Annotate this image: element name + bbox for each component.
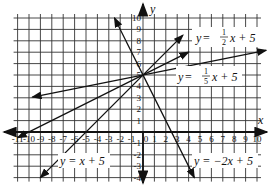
x-tick-label: -4	[94, 134, 102, 144]
x-tick-label: 0	[144, 134, 149, 144]
y-tick-label: 4	[137, 81, 142, 91]
y-tick-label: -2	[134, 150, 142, 160]
x-tick-label: -8	[48, 134, 56, 144]
y-tick-label: -3	[134, 161, 142, 171]
svg-text:1: 1	[204, 67, 208, 76]
svg-text:y: y	[177, 70, 184, 84]
y-tick-label: -1	[134, 138, 142, 148]
y-tick-label: 3	[137, 93, 142, 103]
svg-text:5: 5	[204, 77, 208, 86]
x-tick-label: 8	[232, 134, 237, 144]
x-tick-label: -3	[105, 134, 113, 144]
y-tick-label: 7	[137, 47, 142, 57]
svg-text:x + 5: x + 5	[211, 70, 237, 84]
svg-text:1: 1	[222, 28, 226, 37]
x-tick-label: 7	[221, 134, 226, 144]
svg-text:=: =	[203, 31, 210, 45]
x-tick-label: -7	[59, 134, 67, 144]
label-neg2-line: y = −2x + 5	[192, 153, 258, 168]
svg-text:y: y	[195, 31, 202, 45]
label-fifth-line: y = 1 5 x + 5	[176, 66, 242, 86]
svg-text:x + 5: x + 5	[229, 31, 255, 45]
svg-text:y = −2x + 5: y = −2x + 5	[193, 154, 253, 168]
x-tick-label: -9	[37, 134, 45, 144]
label-half-line: y = 1 2 x + 5	[192, 27, 262, 47]
y-tick-label: 10	[132, 13, 142, 23]
x-tick-label: -5	[82, 134, 90, 144]
x-tick-label: 4	[186, 134, 191, 144]
coordinate-graph: -11-10-9-8-7-6-5-4-3-2-10123456789101098…	[0, 0, 268, 185]
x-axis-label: x	[257, 113, 264, 127]
label-x-line: y = x + 5	[58, 153, 110, 168]
x-tick-label: 5	[198, 134, 203, 144]
x-tick-label: 10	[253, 134, 263, 144]
y-tick-label: -4	[134, 173, 142, 183]
svg-text:2: 2	[222, 38, 226, 47]
x-tick-label: 1	[152, 134, 157, 144]
y-tick-label: 2	[137, 104, 142, 114]
y-tick-label: 8	[137, 36, 142, 46]
x-tick-label: -10	[23, 134, 35, 144]
y-axis-label: y	[149, 2, 156, 16]
svg-text:=: =	[185, 70, 192, 84]
svg-text:y = x + 5: y = x + 5	[59, 154, 105, 168]
y-tick-label: 1	[137, 116, 142, 126]
x-tick-label: 6	[209, 134, 214, 144]
y-tick-label: 9	[137, 24, 142, 34]
x-tick-label: 2	[164, 134, 169, 144]
x-tick-label: -2	[116, 134, 124, 144]
x-tick-label: 9	[243, 134, 248, 144]
